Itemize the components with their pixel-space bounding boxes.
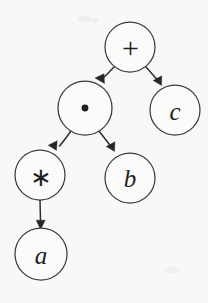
node-c-label: c: [169, 98, 180, 125]
node-star-label: ∗: [30, 163, 52, 192]
scan-smudge-bottom: [164, 267, 180, 273]
edge-root-to-mul: [95, 67, 114, 84]
node-b[interactable]: b: [105, 153, 155, 203]
node-c[interactable]: c: [150, 85, 200, 135]
node-b-label: b: [124, 165, 137, 192]
expression-tree-svg: + c ∗ b: [0, 0, 208, 303]
edge-mul-to-star-arrowhead: [48, 141, 57, 151]
scan-smudge-top-2: [91, 17, 99, 22]
edge-star-to-a: [36, 200, 45, 230]
edge-mul-to-star: [48, 131, 71, 151]
edge-root-to-mul-arrowhead: [95, 74, 105, 84]
edge-mul-to-b: [99, 131, 115, 152]
node-a[interactable]: a: [15, 228, 67, 280]
node-root-plus-label: +: [122, 31, 139, 64]
edge-mul-to-b-arrowhead: [106, 142, 115, 152]
edge-root-to-c: [146, 67, 162, 86]
node-mul-dot[interactable]: [58, 81, 112, 135]
scan-smudge-top: [77, 16, 91, 22]
node-a-label: a: [35, 242, 48, 269]
edge-star-to-a-line: [40, 200, 41, 221]
node-root-plus[interactable]: +: [105, 22, 155, 72]
expression-tree-figure: + c ∗ b: [0, 0, 208, 303]
node-group: + c ∗ b: [15, 22, 200, 280]
edge-mul-to-star-line: [60, 131, 72, 146]
dot-glyph: [82, 105, 89, 112]
node-star[interactable]: ∗: [15, 150, 65, 200]
